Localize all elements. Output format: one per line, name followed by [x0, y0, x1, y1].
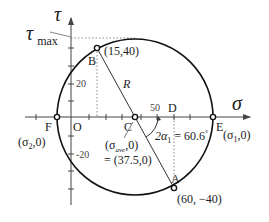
point-c-coords-line1: (σave,0) [105, 138, 138, 154]
tau-tick-neg20: -20 [76, 149, 89, 160]
point-f [54, 114, 59, 119]
angle-label: 2α1 = 60.6° [155, 129, 208, 145]
point-c-label: C [124, 120, 132, 134]
tau-axis-label: τ [54, 3, 62, 25]
point-c [132, 114, 137, 119]
point-a [171, 185, 176, 190]
sigma-tick-50: 50 [150, 102, 160, 113]
point-a-coords: (60, −40) [177, 192, 222, 206]
point-f-label: F [45, 120, 52, 134]
point-f-coords: (σ2,0) [18, 135, 45, 151]
origin-label: O [73, 120, 82, 134]
tau-tick-20: 20 [76, 78, 86, 89]
point-e-coords: (σ1,0) [223, 128, 250, 144]
point-b-coords: (15,40) [104, 44, 139, 58]
radius-label: R [122, 77, 131, 91]
point-e [210, 114, 215, 119]
sigma-axis-label: σ [232, 92, 243, 114]
points [54, 45, 215, 190]
tau-max-label: τ max [26, 22, 58, 48]
point-b-label: B [88, 54, 96, 68]
point-a-label: A [171, 172, 180, 186]
mohr-circle-diagram: τ σ τ max B (15,40) R 20 -20 50 D O C F … [0, 0, 269, 222]
point-d-label: D [168, 101, 177, 115]
point-c-coords-line2: = (37.5,0) [104, 153, 152, 167]
point-b [94, 45, 99, 50]
